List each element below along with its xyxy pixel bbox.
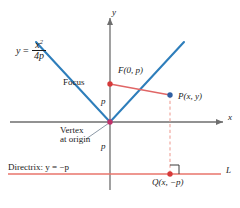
foot-point-dot bbox=[167, 171, 172, 176]
focus-point-dot bbox=[107, 81, 112, 86]
p-distance-lower-label: p bbox=[101, 142, 106, 151]
parabola-figure: y = x2 4p Focus F(0, p) P(x, y) Q(x, −p)… bbox=[0, 0, 240, 208]
p-distance-upper-label: p bbox=[101, 97, 106, 106]
equation-denominator: 4p bbox=[32, 51, 46, 62]
focus-coordinate-label: F(0, p) bbox=[118, 66, 143, 75]
y-axis-label: y bbox=[112, 8, 116, 17]
curve-point-dot bbox=[167, 92, 172, 97]
equation-equals: = bbox=[23, 45, 29, 56]
vertex-point-dot bbox=[107, 119, 112, 124]
point-p-coordinate-label: P(x, y) bbox=[178, 92, 202, 101]
equation-label: y = x2 4p bbox=[16, 40, 46, 63]
line-l-label: L bbox=[226, 166, 231, 175]
focal-radius-segment bbox=[110, 84, 170, 95]
x-axis-label: x bbox=[228, 113, 232, 122]
directrix-text-label: Directrix: y = −p bbox=[8, 163, 69, 172]
figure-canvas bbox=[0, 0, 240, 208]
vertex-annotation: Vertex at origin bbox=[60, 126, 90, 145]
equation-lhs: y bbox=[16, 45, 20, 56]
equation-fraction: x2 4p bbox=[32, 39, 46, 62]
vertex-annotation-line2: at origin bbox=[60, 135, 90, 144]
x-axis bbox=[10, 119, 223, 125]
y-axis bbox=[107, 18, 113, 190]
focus-text-label: Focus bbox=[63, 78, 85, 87]
point-q-coordinate-label: Q(x, −p) bbox=[152, 178, 184, 187]
